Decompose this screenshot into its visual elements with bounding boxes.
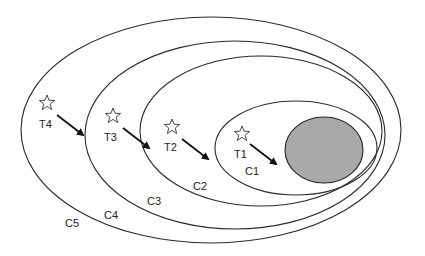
marker-t3: T3	[104, 108, 149, 148]
markers: T1T2T3T4	[39, 95, 276, 164]
nested-ellipse-diagram: T1T2T3T4 C1C2C3C4C5	[0, 0, 425, 256]
class-label-c2: C2	[193, 180, 207, 192]
core-region	[285, 117, 363, 183]
star-icon	[105, 108, 120, 123]
star-icon	[39, 95, 54, 110]
arrow-icon	[250, 144, 276, 164]
class-label-c4: C4	[104, 209, 118, 221]
star-icon	[164, 119, 179, 134]
marker-t1: T1	[234, 126, 276, 164]
star-icon	[234, 126, 249, 141]
class-label-c5: C5	[65, 217, 79, 229]
marker-label: T4	[39, 118, 52, 130]
arrow-icon	[123, 128, 149, 148]
class-label-c3: C3	[147, 195, 161, 207]
marker-t2: T2	[164, 119, 208, 159]
arrow-icon	[57, 115, 83, 135]
marker-label: T2	[164, 141, 177, 153]
marker-t4: T4	[39, 95, 83, 135]
marker-label: T1	[234, 148, 247, 160]
arrow-icon	[182, 139, 208, 159]
marker-label: T3	[104, 131, 117, 143]
class-label-c1: C1	[245, 165, 259, 177]
